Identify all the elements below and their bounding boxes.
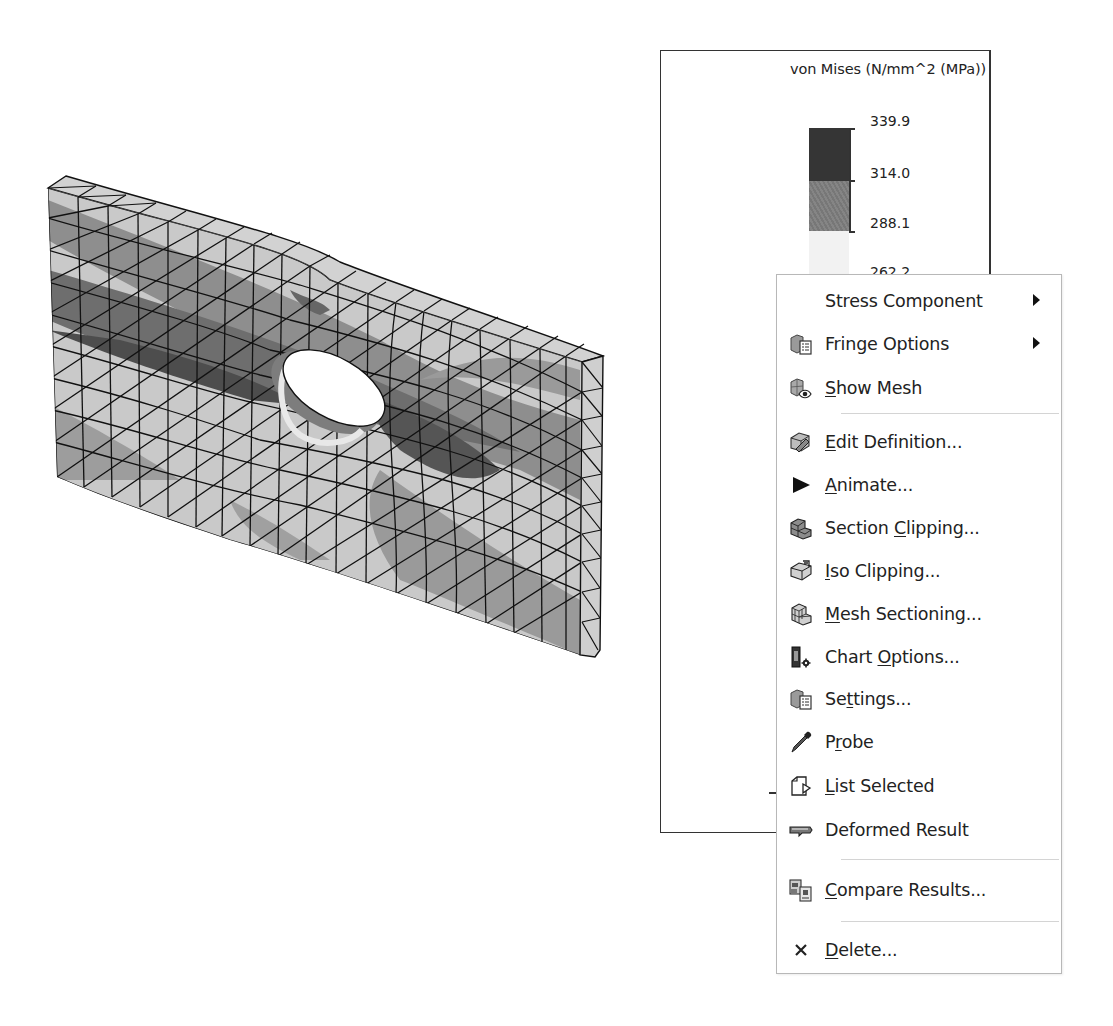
show-mesh-icon — [789, 376, 813, 400]
fea-model-plate[interactable] — [0, 0, 660, 700]
menu-item-settings[interactable]: Settings... — [777, 679, 1061, 719]
menu-item-section-clipping[interactable]: Section Clipping... — [777, 508, 1061, 548]
menu-item-label: Section Clipping... — [825, 518, 980, 538]
color-bar-band-2 — [809, 181, 849, 231]
menu-item-mesh-sectioning[interactable]: Mesh Sectioning... — [777, 594, 1061, 634]
menu-separator — [841, 921, 1059, 922]
menu-item-iso-clipping[interactable]: Iso Clipping... — [777, 551, 1061, 591]
legend-border — [989, 50, 991, 274]
menu-item-label: Edit Definition... — [825, 432, 962, 452]
menu-item-label: Iso Clipping... — [825, 561, 940, 581]
menu-item-delete[interactable]: Delete... — [777, 930, 1061, 970]
chart-options-icon — [789, 645, 813, 669]
menu-item-label: Delete... — [825, 940, 897, 960]
menu-item-label: Compare Results... — [825, 880, 986, 900]
iso-clipping-icon — [789, 559, 813, 583]
menu-item-stress-component[interactable]: Stress Component — [777, 281, 1061, 321]
settings-icon — [789, 687, 813, 711]
legend-title: von Mises (N/mm^2 (MPa)) — [790, 61, 986, 77]
menu-item-edit-definition[interactable]: Edit Definition... — [777, 422, 1061, 462]
play-icon — [789, 473, 813, 497]
menu-item-compare-results[interactable]: Compare Results... — [777, 870, 1061, 910]
menu-item-label: Animate... — [825, 475, 913, 495]
tick-mark — [849, 180, 855, 182]
tick-mark — [769, 792, 776, 794]
edit-definition-icon — [789, 430, 813, 454]
menu-item-fringe-options[interactable]: Fringe Options — [777, 324, 1061, 364]
menu-item-animate[interactable]: Animate... — [777, 465, 1061, 505]
tick-mark — [849, 128, 855, 130]
fringe-options-icon — [789, 332, 813, 356]
menu-item-label: Stress Component — [825, 291, 983, 311]
color-bar-band-3 — [809, 231, 849, 276]
legend-tick-label: 288.1 — [870, 215, 910, 231]
menu-item-label: Mesh Sectioning... — [825, 604, 982, 624]
tick-mark — [849, 231, 855, 233]
menu-item-label: List Selected — [825, 776, 934, 796]
menu-item-chart-options[interactable]: Chart Options... — [777, 637, 1061, 677]
delete-icon — [789, 938, 813, 962]
menu-separator — [841, 859, 1059, 860]
menu-item-label: Fringe Options — [825, 334, 949, 354]
context-menu: Stress Component Fringe Options Show Mes… — [776, 274, 1062, 974]
menu-item-label: Chart Options... — [825, 647, 960, 667]
menu-item-probe[interactable]: Probe — [777, 722, 1061, 762]
menu-item-label: Show Mesh — [825, 378, 922, 398]
menu-item-label: Probe — [825, 732, 874, 752]
deformed-result-icon — [789, 818, 813, 842]
menu-item-label: Settings... — [825, 689, 911, 709]
menu-separator — [841, 413, 1059, 414]
mesh-sectioning-icon — [789, 602, 813, 626]
compare-results-icon — [789, 878, 813, 902]
menu-item-deformed-result[interactable]: Deformed Result — [777, 810, 1061, 850]
legend-tick-label: 314.0 — [870, 165, 910, 181]
menu-item-list-selected[interactable]: List Selected — [777, 766, 1061, 806]
menu-item-label: Deformed Result — [825, 820, 969, 840]
submenu-arrow-icon — [1033, 294, 1040, 306]
probe-icon — [789, 730, 813, 754]
section-clipping-icon — [789, 516, 813, 540]
list-selected-icon — [789, 774, 813, 798]
submenu-arrow-icon — [1033, 337, 1040, 349]
menu-item-show-mesh[interactable]: Show Mesh — [777, 368, 1061, 408]
legend-tick-label: 339.9 — [870, 113, 910, 129]
color-bar-band-1 — [809, 128, 849, 181]
